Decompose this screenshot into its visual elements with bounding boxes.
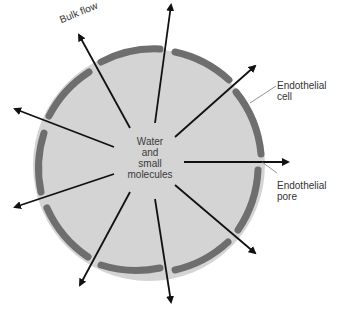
center-label: Water and small molecules	[118, 136, 182, 180]
center-label-line: small	[118, 158, 182, 169]
label-line: pore	[277, 191, 326, 202]
label-line: Endothelial	[277, 80, 326, 91]
endothelial-pore-label: Endothelial pore	[277, 180, 326, 202]
center-label-line: and	[118, 147, 182, 158]
label-line: Endothelial	[277, 180, 326, 191]
label-line: cell	[277, 91, 326, 102]
endothelial-cell-label: Endothelial cell	[277, 80, 326, 102]
leader-line-endothelial-cell	[250, 86, 276, 103]
center-label-line: molecules	[118, 169, 182, 180]
center-label-line: Water	[118, 136, 182, 147]
